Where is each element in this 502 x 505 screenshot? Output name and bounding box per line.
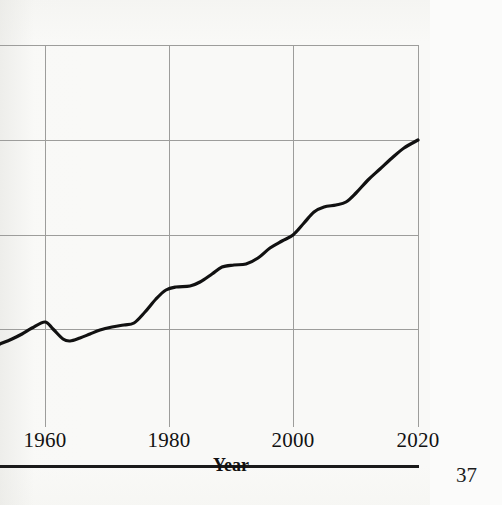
x-tick-label-1980: 1980 [148,428,191,453]
book-page: 1960 1980 2000 2020 Year 37 [0,0,502,505]
series-1-path [0,140,418,344]
page-right-margin [430,0,502,505]
page-number: 37 [456,463,477,488]
x-axis-line [0,465,419,468]
x-tick-label-2000: 2000 [272,428,315,453]
x-tick-label-1960: 1960 [24,428,67,453]
chart-series-line [0,45,419,420]
chart-plot-area [0,45,419,420]
x-tick-label-2020: 2020 [397,428,440,453]
x-axis-title: Year [213,455,249,476]
